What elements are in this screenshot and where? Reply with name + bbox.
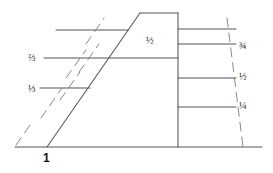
fraction-label-1-0: 1: [43, 152, 50, 164]
dash-slope-d: [66, 50, 86, 78]
dash-slope-c: [60, 72, 80, 100]
fraction-label--0: ⅔: [28, 53, 36, 63]
fraction-label--0: ½: [146, 36, 154, 46]
fraction-label--1: ⅓: [28, 84, 36, 94]
dash-slope-a: [16, 125, 30, 145]
solid-lines-group: [15, 13, 262, 147]
slope-diagram-figure: ⅔⅓½¾½¼1: [0, 0, 273, 173]
dash-slope-b: [41, 88, 62, 118]
front-slope: [47, 13, 140, 147]
fraction-label--1: ½: [239, 72, 247, 82]
dash-slope-right: [227, 18, 243, 147]
dashed-lines-group: [16, 18, 243, 147]
fraction-label--0: ¾: [239, 41, 247, 51]
dash-slope-f: [86, 18, 104, 44]
fraction-label--2: ¼: [239, 101, 247, 111]
diagram-canvas: [0, 0, 273, 173]
